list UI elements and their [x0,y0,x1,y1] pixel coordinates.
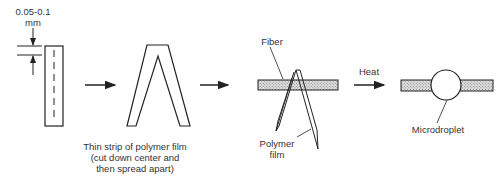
thickness-label: 0.05-0.1 mm [8,6,58,28]
fiber-leader-line [270,47,283,79]
film-leader-line [297,129,311,137]
heat-label: Heat [352,66,386,77]
microdroplet-label: Microdroplet [400,124,476,135]
thickness-dimension [17,28,42,75]
droplet-leader-line [437,100,447,123]
polymer-film-label: Polymer film [252,138,302,160]
fiber [258,80,338,90]
microdroplet [431,70,461,100]
step1-caption: Thin strip of polymer film (cut down cen… [65,141,205,174]
polymer-strip [45,46,63,126]
fiber-with-droplet [401,70,493,123]
fiber-with-film [258,47,338,149]
spread-strip [127,45,190,126]
fiber-label: Fiber [252,36,292,47]
